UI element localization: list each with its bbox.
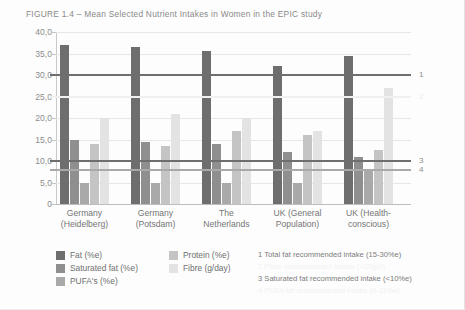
bar <box>354 157 363 204</box>
y-axis-tick-label: 40,0 <box>18 27 52 37</box>
legend-item[interactable]: Fat (%e) <box>56 250 102 260</box>
x-axis-label-line: conscious) <box>333 219 404 230</box>
y-axis-tick-label: 0 <box>18 199 52 209</box>
bar <box>344 56 353 204</box>
bar <box>60 45 69 204</box>
y-axis-labels: 40,035,030,025,020,015,010,05,00 <box>14 32 52 212</box>
legend-label: Saturated fat (%e) <box>70 263 138 273</box>
legend-label: Fat (%e) <box>70 250 102 260</box>
x-axis-label-line: The <box>191 208 262 219</box>
bar <box>90 144 99 204</box>
footnote: 1 Total fat recommended intake (15-30%e) <box>258 250 401 259</box>
x-axis-label-line: Population) <box>262 219 333 230</box>
figure-title: FIGURE 1.4 – Mean Selected Nutrient Inta… <box>26 9 322 19</box>
bar-group <box>344 32 393 204</box>
bar <box>131 47 140 204</box>
x-axis-label-line: Germany <box>49 208 120 219</box>
bar <box>222 183 231 205</box>
bar <box>80 183 89 205</box>
legend-swatch-icon <box>56 264 65 273</box>
bar <box>141 142 150 204</box>
x-axis-label-line: UK (Health- <box>333 208 404 219</box>
x-axis-category-label: UK (Health-conscious) <box>333 208 404 230</box>
y-axis-tick-label: 25,0 <box>18 92 52 102</box>
bar <box>151 183 160 205</box>
reference-line-4 <box>50 169 411 171</box>
y-axis-tick-mark <box>51 54 56 55</box>
legend-item[interactable]: Protein (%e) <box>169 250 230 260</box>
figure-page: FIGURE 1.4 – Mean Selected Nutrient Inta… <box>0 0 465 310</box>
bar <box>212 144 221 204</box>
bar <box>293 183 302 205</box>
footnote: 3 Saturated fat recommended intake (<10%… <box>258 274 412 283</box>
y-axis-tick-label: 5,0 <box>18 178 52 188</box>
y-axis-tick-label: 30,0 <box>18 70 52 80</box>
bar <box>273 66 282 204</box>
bar-group <box>273 32 322 204</box>
bar-group <box>131 32 180 204</box>
x-axis-label-line: UK (General <box>262 208 333 219</box>
chart-legend: Fat (%e)Saturated fat (%e)PUFA's (%e)Pro… <box>56 250 246 294</box>
legend-item[interactable]: Saturated fat (%e) <box>56 263 138 273</box>
x-axis-category-label: Germany(Potsdam) <box>120 208 191 230</box>
x-axis-label-line: (Heidelberg) <box>49 219 120 230</box>
reference-line-label-1: 1 <box>419 70 423 79</box>
bar <box>313 131 322 204</box>
bar <box>232 131 241 204</box>
legend-swatch-icon <box>56 277 65 286</box>
x-axis-category-label: UK (GeneralPopulation) <box>262 208 333 230</box>
reference-line-1 <box>50 74 411 76</box>
bar-group <box>202 32 251 204</box>
y-axis-tick-mark <box>51 32 56 33</box>
y-axis-tick-label: 20,0 <box>18 113 52 123</box>
legend-label: PUFA's (%e) <box>70 276 118 286</box>
y-axis-tick-label: 15,0 <box>18 135 52 145</box>
x-axis-line <box>50 204 411 205</box>
legend-item[interactable]: Fibre (g/day) <box>169 263 230 273</box>
x-axis-label-line: (Potsdam) <box>120 219 191 230</box>
y-axis-tick-label: 35,0 <box>18 49 52 59</box>
legend-swatch-icon <box>169 251 178 260</box>
y-axis-tick-mark <box>51 183 56 184</box>
reference-line-label-2: 2 <box>419 92 423 101</box>
y-axis-tick-mark <box>51 118 56 119</box>
x-axis-label-line: Germany <box>120 208 191 219</box>
legend-item[interactable]: PUFA's (%e) <box>56 276 118 286</box>
chart-plot-area: 1234 <box>56 32 411 204</box>
legend-swatch-icon <box>56 251 65 260</box>
y-axis-tick-mark <box>51 204 56 205</box>
y-axis-tick-label: 10,0 <box>18 156 52 166</box>
legend-swatch-icon <box>169 264 178 273</box>
x-axis-category-label: TheNetherlands <box>191 208 262 230</box>
legend-label: Fibre (g/day) <box>183 263 230 273</box>
x-axis-label-line: Netherlands <box>191 219 262 230</box>
reference-line-2 <box>50 96 411 98</box>
bar <box>374 150 383 204</box>
footnote: 4 PUFA fat recommended intake (6-11%e) <box>258 286 400 295</box>
x-axis-category-label: Germany(Heidelberg) <box>49 208 120 230</box>
reference-line-label-4: 4 <box>419 165 423 174</box>
bar <box>364 170 373 204</box>
y-axis-tick-mark <box>51 140 56 141</box>
bar <box>384 88 393 204</box>
bar <box>161 146 170 204</box>
footnote: 2 Fibre recommended intake (>25g/d) <box>258 262 385 271</box>
bar-group <box>60 32 109 204</box>
bar <box>171 114 180 204</box>
legend-label: Protein (%e) <box>183 250 230 260</box>
x-axis-category-labels: Germany(Heidelberg)Germany(Potsdam)TheNe… <box>56 208 411 238</box>
reference-line-3 <box>50 160 411 162</box>
bar <box>70 140 79 205</box>
chart-footnotes: 1 Total fat recommended intake (15-30%e)… <box>258 250 458 298</box>
